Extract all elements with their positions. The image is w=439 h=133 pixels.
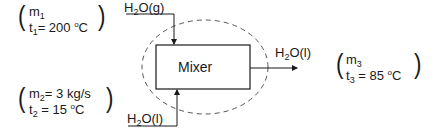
stream1-close-paren: ) [98, 2, 105, 30]
stream3-phase-label: H2O(l) [275, 46, 311, 59]
stream1-open-paren: ( [18, 2, 25, 30]
stream1-temperature: t1= 200 oC [29, 22, 88, 36]
stream2-phase-label: H2O(l) [127, 112, 163, 125]
stream3-temperature: t3 = 85 oC [346, 70, 401, 84]
stream3-close-paren: ) [414, 50, 421, 78]
stream2-conditions: m2= 3 kg/s t2 = 15 oC [29, 88, 91, 118]
stream2-temperature: t2 = 15 oC [29, 104, 91, 118]
stream2-mass-flow: m2= 3 kg/s [29, 88, 91, 101]
stream2-open-paren: ( [18, 84, 25, 112]
stream1-inlet-arrow [126, 14, 174, 44]
stream3-mass-flow: m3 [346, 54, 401, 67]
mixer-label: Mixer [178, 60, 212, 74]
stream1-phase-label: H2O(g) [124, 1, 164, 14]
stream3-conditions: m3 t3 = 85 oC [346, 54, 401, 84]
stream2-close-paren: ) [106, 84, 113, 112]
stream3-open-paren: ( [336, 50, 343, 78]
stream1-conditions: m1 t1= 200 oC [29, 6, 88, 36]
stream1-mass-flow: m1 [29, 6, 88, 19]
